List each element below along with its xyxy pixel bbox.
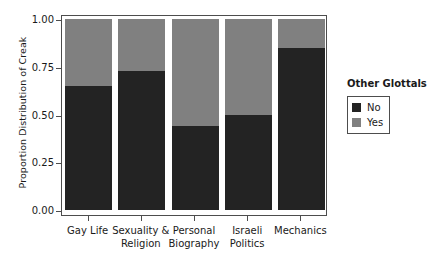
plot-area xyxy=(62,16,326,215)
x-axis-label-line: Mechanics xyxy=(274,225,327,236)
x-axis-tick-mark xyxy=(247,216,248,221)
bar-segment-no xyxy=(278,48,325,210)
bar-segment-yes xyxy=(225,19,272,115)
bar-segment-yes xyxy=(65,19,112,86)
bar-segment-yes xyxy=(118,19,165,71)
bar-segment-yes xyxy=(172,19,219,126)
x-axis-label-line: Gay Life xyxy=(67,225,108,236)
bar-segment-no xyxy=(225,115,272,211)
x-axis: Gay LifeSexuality &ReligionPersonalBiogr… xyxy=(61,216,327,262)
bar-mechanics xyxy=(278,19,325,210)
x-axis-tick-mark xyxy=(194,216,195,221)
x-axis-label-line: Religion xyxy=(121,238,161,249)
y-axis-tick-label: 1.00 xyxy=(22,15,54,25)
x-axis-tick-mark xyxy=(88,216,89,221)
legend-item-label: No xyxy=(367,103,381,113)
legend-swatch-icon xyxy=(351,117,362,128)
bar-personal-biography xyxy=(172,19,219,210)
x-axis-tick-mark xyxy=(141,216,142,221)
x-axis-label-line: Biography xyxy=(169,238,220,249)
y-axis-tick-label: 0.00 xyxy=(22,206,54,216)
bar-segment-no xyxy=(172,126,219,210)
y-axis-tick-labels: 0.000.250.500.751.00 xyxy=(22,0,54,263)
bar-segment-no xyxy=(65,86,112,210)
plot-panel xyxy=(61,15,327,216)
x-axis-label-line: Personal xyxy=(173,225,216,236)
bar-segment-yes xyxy=(278,19,325,48)
bar-gay-life xyxy=(65,19,112,210)
legend-item-label: Yes xyxy=(367,118,383,128)
legend-item-no: No xyxy=(351,100,383,115)
bar-segment-no xyxy=(118,71,165,210)
y-axis-tick-label: 0.50 xyxy=(22,111,54,121)
bar-israeli-politics xyxy=(225,19,272,210)
x-axis-tick-label: Mechanics xyxy=(268,225,333,238)
legend: Other Glottals NoYes xyxy=(347,78,427,134)
x-axis-tick-mark xyxy=(300,216,301,221)
legend-box: NoYes xyxy=(347,96,390,134)
legend-swatch-icon xyxy=(351,102,362,113)
legend-item-yes: Yes xyxy=(351,115,383,130)
legend-title: Other Glottals xyxy=(347,78,427,89)
y-axis-tick-label: 0.75 xyxy=(22,63,54,73)
x-axis-label-line: Israeli xyxy=(232,225,262,236)
bar-sexuality-religion xyxy=(118,19,165,210)
x-axis-label-line: Politics xyxy=(230,238,265,249)
y-axis-tick-label: 0.25 xyxy=(22,158,54,168)
